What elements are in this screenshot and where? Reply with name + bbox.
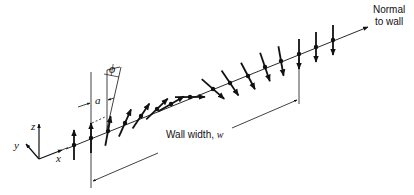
spin-site-dot <box>211 87 215 91</box>
z-axis-label: z <box>31 120 35 132</box>
spacing-a-label: a <box>95 94 101 106</box>
phi-angle-label: ϕ <box>109 62 115 77</box>
spin-site-dot <box>72 143 76 147</box>
spin-site-dot <box>188 95 192 99</box>
wall-width-symbol: w <box>217 129 224 140</box>
x-axis-label: x <box>56 152 61 164</box>
wall-width-label: Wall width, w <box>166 129 223 140</box>
spin-site-dot <box>263 65 267 69</box>
spin-site-dot <box>106 129 110 133</box>
spin-site-dot <box>297 52 301 56</box>
spin-site-dot <box>139 114 143 118</box>
y-axis-label: y <box>14 139 19 151</box>
normal-to-wall-label: Normal to wall <box>373 4 405 28</box>
normal-label-line1: Normal <box>373 4 405 16</box>
y-axis-arrow <box>26 144 39 159</box>
wall-width-text: Wall width, <box>166 129 214 140</box>
spin-site-dot <box>314 45 318 49</box>
normal-label-line2: to wall <box>373 16 405 28</box>
spin-site-dot <box>246 74 250 78</box>
spin-site-dot <box>279 59 283 63</box>
spin-site-dot <box>123 121 127 125</box>
domain-wall-diagram <box>0 0 414 195</box>
spin-site-dot <box>89 136 93 140</box>
spin-site-dot <box>228 81 232 85</box>
spin-site-dot <box>331 38 335 42</box>
spin-site-dot <box>169 102 173 106</box>
